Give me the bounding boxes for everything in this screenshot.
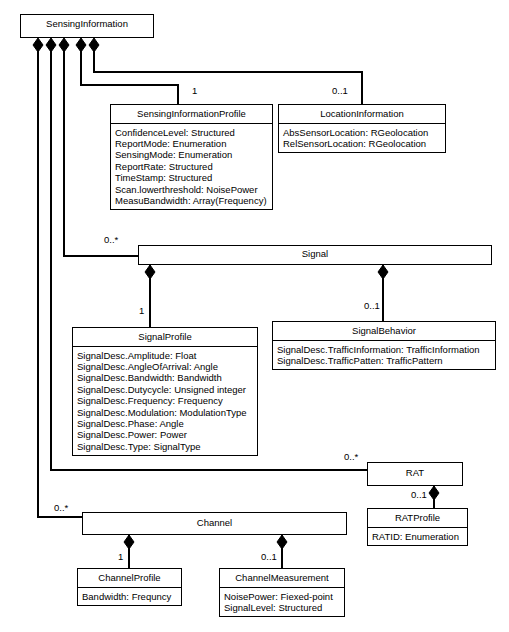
class-name: SensingInformation <box>21 15 153 33</box>
attribute-compartment: Bandwidth: Frequncy <box>78 587 181 605</box>
attribute-row: SignalDesc.TrafficPatten: TrafficPattern <box>277 355 492 366</box>
attribute-row: SignalDesc.AngleOfArrival: Angle <box>77 361 254 372</box>
multiplicity-rat: 0..* <box>344 452 358 462</box>
class-locationinformation[interactable]: LocationInformation AbsSensorLocation: R… <box>278 104 446 153</box>
attribute-compartment: SignalDesc.Amplitude: Float SignalDesc.A… <box>73 346 257 456</box>
attribute-row: SignalDesc.Bandwidth: Bandwidth <box>77 372 254 383</box>
multiplicity-channelprofile: 1 <box>118 552 123 562</box>
multiplicity-sensingprofile: 1 <box>192 86 197 96</box>
multiplicity-channelmeasurement: 0..1 <box>261 552 277 562</box>
uml-class-diagram: SensingInformation SensingInformationPro… <box>0 0 509 632</box>
class-ratprofile[interactable]: RATProfile RATID: Enumeration <box>367 508 468 546</box>
diamond-location <box>89 38 99 52</box>
attribute-row: SignalDesc.Phase: Angle <box>77 418 254 429</box>
class-name: LocationInformation <box>279 105 445 123</box>
attribute-row: Bandwidth: Frequncy <box>82 591 178 602</box>
attribute-row: ConfidenceLevel: Structured <box>115 127 269 138</box>
class-channelprofile[interactable]: ChannelProfile Bandwidth: Frequncy <box>77 568 182 606</box>
attribute-row: SensingMode: Enumeration <box>115 149 269 160</box>
class-name: SensingInformationProfile <box>111 105 272 123</box>
attribute-row: RelSensorLocation: RGeolocation <box>283 138 442 149</box>
class-signalbehavior[interactable]: SignalBehavior SignalDesc.TrafficInforma… <box>272 321 496 370</box>
class-name: Channel <box>83 513 346 532</box>
multiplicity-signalbehavior: 0..1 <box>364 301 380 311</box>
multiplicity-locationinformation: 0..1 <box>332 86 348 96</box>
attribute-compartment: SignalDesc.TrafficInformation: TrafficIn… <box>273 340 495 370</box>
attribute-row: ReportRate: Structured <box>115 161 269 172</box>
diamond-channelprofile <box>124 535 134 549</box>
attribute-compartment: ConfidenceLevel: Structured ReportMode: … <box>111 123 272 210</box>
line-sensinginformation-profile <box>81 48 178 104</box>
attribute-row: SignalDesc.Power: Power <box>77 429 254 440</box>
attribute-row: SignalLevel: Structured <box>224 602 341 613</box>
attribute-row: SignalDesc.Dutycycle: Unsigned integer <box>77 384 254 395</box>
attribute-compartment: RATID: Enumeration <box>368 527 467 545</box>
attribute-row: SignalDesc.TrafficInformation: TrafficIn… <box>277 344 492 355</box>
class-signal[interactable]: Signal <box>138 245 492 265</box>
diamond-signal <box>59 38 69 52</box>
diamond-channelmeasurement <box>277 535 287 549</box>
class-name: ChannelMeasurement <box>220 569 344 587</box>
attribute-row: Scan.lowerthreshold: NoisePower <box>115 184 269 195</box>
class-sensinginformation[interactable]: SensingInformation <box>20 14 154 38</box>
attribute-row: ReportMode: Enumeration <box>115 138 269 149</box>
diamond-ratprofile <box>429 486 439 500</box>
line-sensinginformation-location <box>94 48 362 104</box>
attribute-compartment: AbsSensorLocation: RGeolocation RelSenso… <box>279 123 445 153</box>
multiplicity-signalprofile: 1 <box>139 306 144 316</box>
class-name: SignalProfile <box>73 328 257 346</box>
class-name: RAT <box>368 463 462 482</box>
class-name: RATProfile <box>368 509 467 527</box>
diamond-sensingprofile <box>76 38 86 52</box>
attribute-row: NoisePower: Fiexed-point <box>224 591 341 602</box>
class-sensinginformationprofile[interactable]: SensingInformationProfile ConfidenceLeve… <box>110 104 273 210</box>
class-name: Signal <box>139 246 491 263</box>
attribute-row: AbsSensorLocation: RGeolocation <box>283 127 442 138</box>
attribute-row: MeasuBandwidth: Array(Frequency) <box>115 195 269 206</box>
class-name: SignalBehavior <box>273 322 495 340</box>
diamond-channel <box>33 38 43 52</box>
attribute-row: TimeStamp: Structured <box>115 172 269 183</box>
multiplicity-ratprofile: 0..1 <box>411 490 427 500</box>
class-name: ChannelProfile <box>78 569 181 587</box>
diamond-rat <box>46 38 56 52</box>
multiplicity-signal: 0..* <box>104 235 118 245</box>
diamond-signalbehavior <box>378 265 388 279</box>
attribute-row: SignalDesc.Type: SignalType <box>77 441 254 452</box>
attribute-compartment: NoisePower: Fiexed-point SignalLevel: St… <box>220 587 344 617</box>
attribute-row: SignalDesc.Amplitude: Float <box>77 350 254 361</box>
attribute-row: SignalDesc.Frequency: Frequency <box>77 395 254 406</box>
attribute-row: SignalDesc.Modulation: ModulationType <box>77 407 254 418</box>
class-rat[interactable]: RAT <box>367 462 463 486</box>
class-channel[interactable]: Channel <box>82 512 347 535</box>
attribute-row: RATID: Enumeration <box>372 531 464 542</box>
class-channelmeasurement[interactable]: ChannelMeasurement NoisePower: Fiexed-po… <box>219 568 345 617</box>
class-signalprofile[interactable]: SignalProfile SignalDesc.Amplitude: Floa… <box>72 327 258 456</box>
multiplicity-channel: 0..* <box>54 503 68 513</box>
diamond-signalprofile <box>145 265 155 279</box>
